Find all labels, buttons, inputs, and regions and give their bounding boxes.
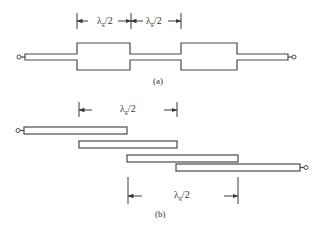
dim-label-b2: λg/2 [174,189,190,201]
caption-b: (b) [155,209,166,219]
dim-label-a1: λg/2 [97,15,113,27]
coupled-line-2 [79,141,177,148]
coupled-line-3 [127,155,238,162]
coupled-line-1 [24,127,127,134]
caption-a: (a) [153,76,163,86]
input-port-a [17,55,21,59]
part-b: λg/2 λg/2 (b) [16,102,308,219]
stepped-impedance-line [25,43,288,70]
part-a: λg/2 λg/2 (a) [17,13,296,86]
output-port-a [292,55,296,59]
output-port-b [304,166,308,170]
coupled-line-4 [176,164,300,171]
dim-label-b1: λg/2 [120,103,136,115]
dim-label-a2: λg/2 [146,15,162,27]
filter-diagram: λg/2 λg/2 (a) λg/2 [0,0,324,232]
input-port-b [16,129,20,133]
